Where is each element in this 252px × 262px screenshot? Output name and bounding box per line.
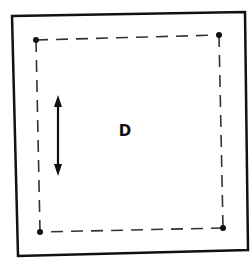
inner-dashed-left <box>36 40 40 232</box>
arrow-head-down <box>54 164 62 176</box>
inner-dashed-right <box>219 35 223 228</box>
corner-dot-top-right <box>216 32 222 38</box>
arrow-head-up <box>54 95 62 107</box>
corner-dot-top-left <box>33 37 39 43</box>
double-arrow-icon <box>54 95 62 176</box>
corner-dot-bottom-right <box>220 225 226 231</box>
diagram-canvas: D <box>0 0 252 262</box>
inner-dashed-bottom <box>40 228 223 232</box>
corner-dot-bottom-left <box>37 229 43 235</box>
inner-dashed-top <box>36 35 219 40</box>
center-label: D <box>119 122 131 140</box>
